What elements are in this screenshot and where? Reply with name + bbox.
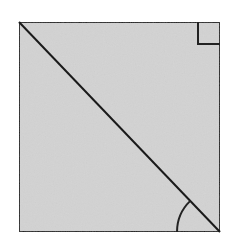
diagram-canvas	[0, 0, 237, 239]
geometry-figure	[0, 0, 237, 239]
